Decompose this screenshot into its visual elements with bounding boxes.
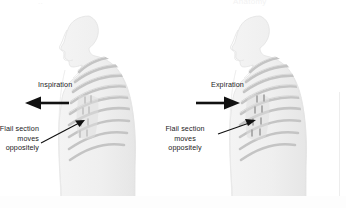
- phase-label-inspiration: Inspiration: [38, 80, 72, 89]
- flail-callout-line1: Flail section: [0, 124, 39, 133]
- phase-label-expiration: Expiration: [211, 80, 244, 89]
- flail-callout-line3: oppositely: [6, 143, 39, 152]
- bottom-margin: [0, 196, 346, 208]
- flail-callout-inspiration: Flail section moves oppositely: [0, 124, 39, 153]
- flail-callout-line3: oppositely: [168, 143, 201, 152]
- torso-illustration-expiration: [174, 10, 342, 200]
- cropped-header-text-right: Anatomy: [233, 0, 267, 6]
- flail-callout-line1: Flail section: [165, 124, 204, 133]
- flail-callout-line2: moves: [17, 134, 39, 143]
- flail-segment-depression: [77, 95, 99, 139]
- page-edge-rule: [339, 92, 340, 204]
- torso-illustration-inspiration: [3, 10, 171, 200]
- cropped-header-text-left: ..: [38, 0, 43, 6]
- flail-callout-line2: moves: [174, 134, 196, 143]
- flail-callout-expiration: Flail section moves oppositely: [152, 124, 218, 153]
- panel-inspiration: Inspiration Flail section moves opposite…: [3, 10, 171, 200]
- panel-expiration: Expiration Flail section moves oppositel…: [174, 10, 342, 200]
- flail-chest-figure: .. Anatomy: [0, 0, 346, 208]
